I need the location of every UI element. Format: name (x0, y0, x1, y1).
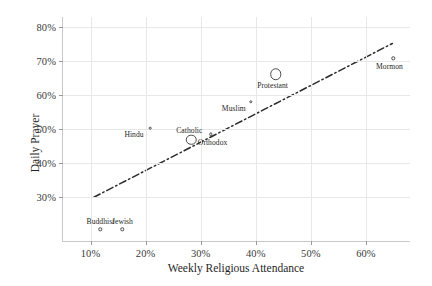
data-point-marker[interactable] (392, 57, 395, 60)
x-axis-tick-label: 10% (81, 248, 101, 259)
y-axis-tick (59, 27, 63, 28)
y-axis-tick-label: 70% (36, 56, 56, 67)
x-axis-tick-label: 50% (301, 248, 321, 259)
x-axis-tick (201, 241, 202, 245)
x-axis-tick (366, 241, 367, 245)
y-axis-tick (59, 129, 63, 130)
data-point-label: Jewish (112, 217, 133, 226)
y-axis-tick-label: 60% (36, 90, 56, 101)
data-point-marker[interactable] (186, 135, 197, 146)
gridline-horizontal (63, 61, 410, 62)
x-axis-tick-label: 30% (191, 248, 211, 259)
data-point-label: Orthodox (198, 138, 228, 147)
x-axis-tick-label: 60% (356, 248, 376, 259)
gridline-horizontal (63, 197, 410, 198)
y-axis-tick (59, 95, 63, 96)
gridline-horizontal (63, 163, 410, 164)
y-axis-title: Daily Prayer (29, 114, 41, 172)
data-point-marker[interactable] (249, 100, 252, 103)
data-point-label: Catholic (176, 126, 202, 135)
x-axis-tick (146, 241, 147, 245)
x-axis-tick (256, 241, 257, 245)
data-point-marker[interactable] (149, 127, 152, 130)
y-axis-tick (59, 61, 63, 62)
gridline-horizontal (63, 129, 410, 130)
y-axis-tick (59, 163, 63, 164)
data-point-label: Hindu (124, 130, 143, 139)
gridline-horizontal (63, 95, 410, 96)
data-point-label: Muslim (222, 104, 246, 113)
data-point-label: Protestant (257, 81, 288, 90)
x-axis-tick (91, 241, 92, 245)
gridline-horizontal (63, 27, 410, 28)
data-point-label: Buddhist (87, 217, 115, 226)
x-axis-title: Weekly Religious Attendance (62, 262, 410, 274)
data-point-marker[interactable] (121, 227, 124, 230)
data-point-marker[interactable] (99, 227, 102, 230)
x-axis-tick (311, 241, 312, 245)
trendline (94, 43, 393, 197)
scatter-chart-figure: 10%20%30%40%50%60%30%40%50%60%70%80%Budd… (0, 0, 432, 286)
y-axis-tick (59, 197, 63, 198)
x-axis-tick-label: 40% (246, 248, 266, 259)
data-point-marker[interactable] (270, 68, 282, 80)
y-axis-tick-label: 80% (36, 22, 56, 33)
data-point-marker[interactable] (209, 133, 212, 136)
plot-area: 10%20%30%40%50%60%30%40%50%60%70%80%Budd… (62, 17, 410, 242)
x-axis-tick-label: 20% (136, 248, 156, 259)
data-point-label: Mormon (376, 62, 403, 71)
y-axis-tick-label: 30% (36, 191, 56, 202)
